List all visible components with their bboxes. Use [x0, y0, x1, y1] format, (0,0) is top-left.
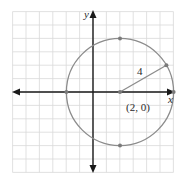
radius-label: 4 [137, 65, 143, 77]
x-axis-label: x [167, 93, 173, 105]
coordinate-plane: y x 4 (2, 0) [0, 0, 187, 180]
top-point [118, 36, 122, 40]
x-axis-left-arrow-icon [12, 89, 20, 96]
bottom-point [118, 144, 122, 148]
left-point [64, 90, 68, 94]
radius-end-point [164, 63, 168, 67]
y-axis-label: y [83, 8, 89, 20]
center-label: (2, 0) [126, 101, 150, 114]
center-point [118, 90, 122, 94]
y-axis-bottom-arrow-icon [90, 165, 97, 173]
